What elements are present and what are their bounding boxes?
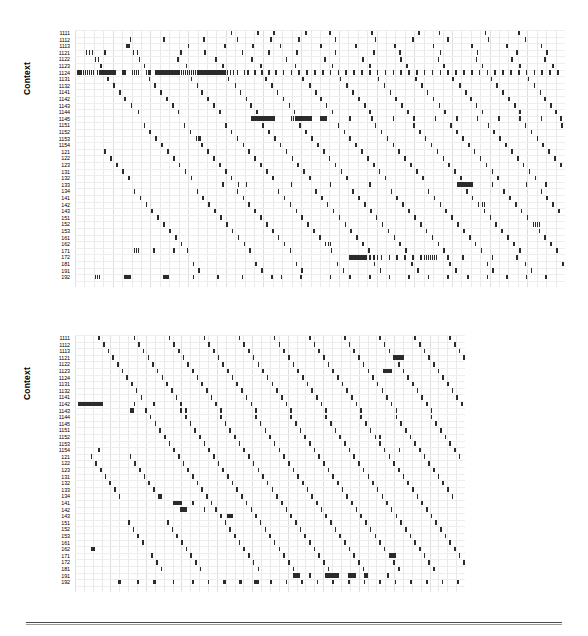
raster-tick [513,242,515,247]
raster-tick [434,196,436,201]
raster-tick [426,402,428,407]
raster-tick [541,116,543,121]
raster-tick [234,435,236,440]
figure-baseline-rule [26,622,562,623]
raster-tick [492,169,494,174]
raster-tick [391,507,393,512]
raster-tick [138,110,140,115]
raster-tick [250,103,252,108]
raster-row [75,427,465,433]
raster-tick [301,268,303,273]
raster-tick [86,50,88,55]
raster-row [75,109,565,115]
raster-tick [373,163,375,168]
raster-tick [557,70,559,75]
raster-tick [222,182,224,187]
raster-tick [428,560,430,565]
y-tick-label: 171 [61,249,70,254]
raster-row [75,254,565,260]
y-tick-label: 122 [61,461,70,466]
raster-tick [108,349,110,354]
raster-tick [251,507,253,512]
raster-tick [511,57,513,62]
raster-tick [323,355,325,360]
raster-tick [300,275,302,280]
raster-tick [246,395,248,400]
raster-tick [274,441,276,446]
raster-tick [413,123,415,128]
raster-row [75,421,465,427]
raster-figure: Context 11111112111311211122112311241131… [0,0,588,636]
raster-tick [510,70,512,75]
raster-tick [387,573,389,578]
raster-tick [137,580,139,585]
raster-tick [265,527,267,532]
raster-row [75,513,465,519]
raster-tick [475,242,477,247]
y-tick-label: 123 [61,468,70,473]
raster-tick [519,110,521,115]
raster-tick [447,255,449,260]
y-tick-label: 1152 [59,435,70,440]
raster-tick [398,362,400,367]
y-tick-label: 1142 [59,97,70,102]
raster-tick [128,44,130,49]
raster-tick [389,349,391,354]
raster-tick [199,136,201,141]
raster-tick [349,547,351,552]
raster-tick [229,428,231,433]
raster-tick [307,222,309,227]
raster-tick [349,342,351,347]
raster-tick [457,580,459,585]
raster-tick [227,474,229,479]
raster-tick [560,163,562,168]
raster-tick [541,70,543,75]
raster-tick [440,527,442,532]
raster-tick [482,64,484,69]
y-tick-label: 143 [61,514,70,519]
raster-tick [248,349,250,354]
raster-tick [322,70,324,75]
raster-tick [201,382,203,387]
raster-row [75,142,565,148]
raster-tick [323,461,325,466]
raster-tick [192,369,194,374]
plot-area-bottom [75,335,465,592]
raster-tick [554,156,556,161]
raster-tick [231,130,233,135]
raster-tick [218,461,220,466]
raster-tick [436,255,438,260]
y-tick-label: 162 [61,242,70,247]
y-tick-label: 1153 [59,442,70,447]
y-tick-label: 153 [61,534,70,539]
raster-tick [443,248,445,253]
raster-tick [198,268,200,273]
raster-tick [141,395,143,400]
y-tick-label: 1141 [59,395,70,400]
raster-tick [251,57,253,62]
raster-tick [201,487,203,492]
raster-tick [364,202,366,207]
raster-row [75,375,465,381]
raster-row [75,169,565,175]
raster-tick [421,395,423,400]
raster-tick [454,342,456,347]
raster-tick [439,31,441,36]
raster-tick [398,149,400,154]
raster-tick [197,481,199,486]
raster-tick [173,248,175,253]
raster-tick [227,70,229,75]
raster-tick [295,421,297,426]
raster-tick [419,448,421,453]
raster-tick [156,560,158,565]
y-axis-title-bottom: Context [22,367,36,400]
raster-tick [307,382,309,387]
raster-tick [376,215,378,220]
raster-tick [104,50,106,55]
raster-row [75,63,565,69]
raster-tick [460,176,462,181]
raster-tick [305,130,307,135]
raster-tick [114,487,116,492]
raster-tick [321,402,323,407]
raster-tick [403,369,405,374]
